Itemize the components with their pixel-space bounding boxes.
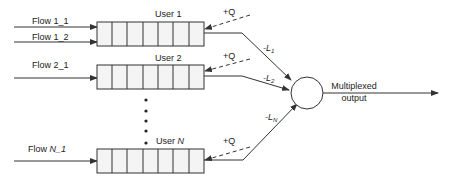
queue-user-n: [97, 149, 204, 173]
link-queue-n: [204, 104, 297, 160]
flow-label-n-1: Flow N_1: [28, 144, 66, 154]
feedback-label-1: +Q: [223, 7, 235, 17]
feedback-label-2: +Q: [223, 51, 235, 61]
multiplexer-diagram: Flow 1_1 Flow 1_2 Flow 2_1 Flow N_1 User…: [0, 0, 451, 183]
link-queue-2: [204, 76, 289, 90]
link-queue-1: [204, 33, 291, 80]
link-label-1: -L1: [263, 43, 274, 54]
queue-user-2: [97, 65, 204, 89]
feedback-arrow-n: [205, 147, 250, 160]
flow-label-2-1: Flow 2_1: [32, 60, 69, 70]
queue-label-user-1: User 1: [155, 9, 182, 19]
ellipsis-dots: [144, 98, 147, 144]
feedback-label-n: +Q: [223, 136, 235, 146]
queue-user-1: [97, 22, 204, 46]
multiplexer-circle: [291, 77, 323, 109]
output-label-line1: Multiplexed: [331, 81, 377, 91]
flow-label-1-1: Flow 1_1: [32, 16, 69, 26]
link-label-n: -LN: [265, 112, 278, 123]
feedback-arrow-1: [205, 15, 250, 29]
queue-label-user-n: User N: [156, 136, 185, 146]
flow-label-1-2: Flow 1_2: [32, 32, 69, 42]
queue-label-user-2: User 2: [155, 53, 182, 63]
output-label-line2: output: [341, 93, 367, 103]
link-label-2: -L2: [263, 73, 275, 84]
